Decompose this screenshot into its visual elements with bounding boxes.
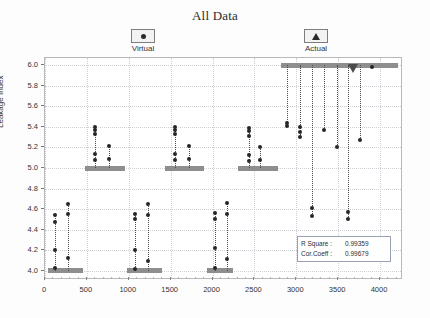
stat-row: Cor.Coeff : 0.99679 [301, 249, 387, 259]
virtual-stem-line [135, 214, 136, 271]
x-tick-minor [329, 277, 330, 279]
x-tick-mark [44, 277, 45, 280]
virtual-data-point [107, 144, 111, 148]
x-tick-label: 2500 [233, 285, 273, 294]
x-tick-minor [262, 277, 263, 279]
virtual-data-point [133, 248, 137, 252]
virtual-data-point [247, 134, 251, 138]
x-tick-label: 0 [24, 285, 64, 294]
x-tick-minor [304, 277, 305, 279]
virtual-data-point [133, 212, 137, 216]
virtual-data-point [298, 125, 302, 129]
virtual-data-point [146, 259, 150, 263]
legend-item-virtual[interactable]: Virtual [113, 29, 173, 53]
x-tick-minor [69, 277, 70, 279]
virtual-data-point [346, 217, 350, 221]
x-tick-minor [287, 277, 288, 279]
x-tick-minor [279, 277, 280, 279]
x-tick-minor [346, 277, 347, 279]
y-tick-mark [41, 64, 44, 65]
x-tick-minor [220, 277, 221, 279]
virtual-stem-line [215, 213, 216, 271]
x-tick-minor [178, 277, 179, 279]
x-tick-mark [379, 277, 380, 280]
virtual-data-point [310, 214, 314, 218]
stat-value-cor-coeff: 0.99679 [345, 249, 387, 259]
virtual-data-point [247, 153, 251, 157]
x-tick-minor [195, 277, 196, 279]
virtual-data-point [322, 128, 326, 132]
x-tick-mark [295, 277, 296, 280]
y-tick-label: 6.0 [0, 60, 38, 69]
stat-label-r-square: R Square : [301, 239, 345, 249]
x-tick-mark [253, 277, 254, 280]
x-tick-minor [61, 277, 62, 279]
y-tick-label: 4.2 [0, 245, 38, 254]
virtual-data-point [53, 220, 57, 224]
x-tick-mark [128, 277, 129, 280]
y-tick-label: 4.8 [0, 184, 38, 193]
actual-triangle-marker [348, 64, 358, 73]
virtual-data-point [213, 246, 217, 250]
virtual-data-point [107, 157, 111, 161]
virtual-stem-line [287, 65, 288, 126]
y-tick-label: 5.0 [0, 163, 38, 172]
virtual-data-point [66, 212, 70, 216]
virtual-data-point [66, 202, 70, 206]
stat-row: R Square : 0.99359 [301, 239, 387, 249]
virtual-data-point [258, 145, 262, 149]
virtual-data-point [173, 152, 177, 156]
virtual-data-point [173, 125, 177, 129]
legend-label-actual: Actual [286, 44, 346, 53]
actual-step-bar [85, 166, 124, 171]
virtual-data-point [133, 267, 137, 271]
x-tick-minor [228, 277, 229, 279]
x-tick-label: 1000 [108, 285, 148, 294]
virtual-data-point [53, 266, 57, 270]
virtual-data-point [298, 135, 302, 139]
y-tick-mark [41, 85, 44, 86]
x-tick-mark [337, 277, 338, 280]
virtual-data-point [358, 138, 362, 142]
x-tick-minor [136, 277, 137, 279]
virtual-data-point [310, 206, 314, 210]
virtual-stem-line [312, 65, 313, 216]
x-tick-minor [387, 277, 388, 279]
x-tick-mark [212, 277, 213, 280]
virtual-data-point [247, 159, 251, 163]
x-tick-label: 2000 [192, 285, 232, 294]
virtual-data-point [213, 211, 217, 215]
virtual-data-point [225, 212, 229, 216]
x-tick-label: 3000 [275, 285, 315, 294]
x-tick-minor [320, 277, 321, 279]
virtual-data-point [187, 157, 191, 161]
virtual-data-point [225, 257, 229, 261]
dot-marker-icon [141, 34, 146, 39]
y-tick-mark [41, 126, 44, 127]
legend-item-actual[interactable]: Actual [286, 29, 346, 53]
virtual-stem-line [324, 65, 325, 130]
virtual-data-point [66, 256, 70, 260]
x-tick-minor [186, 277, 187, 279]
x-tick-minor [245, 277, 246, 279]
page-title: All Data [0, 8, 430, 24]
x-tick-label: 1500 [150, 285, 190, 294]
virtual-stem-line [360, 65, 361, 140]
y-tick-label: 4.4 [0, 225, 38, 234]
chart-screenshot: All Data Virtual Actual Leakage Index R … [0, 0, 430, 318]
y-tick-label: 5.8 [0, 81, 38, 90]
x-tick-minor [94, 277, 95, 279]
y-tick-mark [41, 249, 44, 250]
x-tick-minor [362, 277, 363, 279]
actual-step-bar [238, 166, 278, 171]
x-tick-minor [270, 277, 271, 279]
x-tick-minor [103, 277, 104, 279]
legend-swatch-virtual [131, 29, 155, 43]
stat-label-cor-coeff: Cor.Coeff : [301, 249, 345, 259]
x-tick-minor [371, 277, 372, 279]
statistics-box: R Square : 0.99359 Cor.Coeff : 0.99679 [297, 236, 391, 262]
x-tick-minor [203, 277, 204, 279]
y-tick-label: 4.0 [0, 266, 38, 275]
virtual-data-point [247, 126, 251, 130]
y-tick-mark [41, 146, 44, 147]
